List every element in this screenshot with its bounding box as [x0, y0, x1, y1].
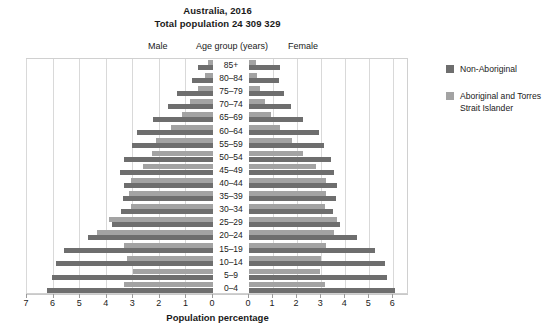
bar-nonaboriginal-female: [249, 196, 336, 201]
bar-aboriginal-male: [205, 73, 214, 78]
x-tick-label: 5: [71, 298, 87, 308]
bar-nonaboriginal-female: [249, 275, 387, 280]
bar-nonaboriginal-female: [249, 104, 291, 109]
bar-aboriginal-male: [127, 256, 213, 261]
bar-row: [27, 72, 213, 85]
axis-side-headers: Male Age group (years) Female: [0, 41, 435, 55]
bar-aboriginal-male: [124, 243, 213, 248]
x-tick-label: 6: [45, 298, 61, 308]
age-group-label: 10–14: [213, 256, 249, 269]
age-group-label-column: 85+80–8475–7970–7465–6960–6455–5950–5445…: [213, 59, 249, 293]
bar-row: [249, 151, 409, 164]
bar-row: [27, 190, 213, 203]
bar-aboriginal-female: [249, 282, 325, 287]
bar-row: [249, 72, 409, 85]
bar-row: [249, 125, 409, 138]
bar-nonaboriginal-female: [249, 209, 333, 214]
bar-row: [249, 138, 409, 151]
bar-row: [27, 98, 213, 111]
bar-row: [249, 256, 409, 269]
bar-row: [249, 229, 409, 242]
bar-nonaboriginal-male: [153, 117, 213, 122]
bar-aboriginal-female: [249, 164, 316, 169]
age-group-label: 55–59: [213, 138, 249, 151]
chart-legend: Non-AboriginalAboriginal and Torres Stra…: [446, 64, 556, 130]
bar-nonaboriginal-male: [192, 78, 213, 83]
bar-aboriginal-female: [249, 151, 303, 156]
bar-aboriginal-male: [143, 164, 213, 169]
x-tick-label: 3: [312, 298, 328, 308]
bar-nonaboriginal-female: [249, 183, 337, 188]
x-axis-title: Population percentage: [0, 312, 435, 323]
bar-aboriginal-female: [249, 86, 260, 91]
bar-row: [249, 85, 409, 98]
bar-nonaboriginal-male: [64, 248, 213, 253]
bar-aboriginal-male: [131, 204, 213, 209]
age-group-label: 40–44: [213, 177, 249, 190]
x-tick-label: 4: [98, 298, 114, 308]
x-tick-label: 4: [336, 298, 352, 308]
bar-nonaboriginal-female: [249, 248, 375, 253]
bar-nonaboriginal-male: [124, 183, 213, 188]
bar-aboriginal-female: [249, 243, 326, 248]
bar-nonaboriginal-female: [249, 222, 340, 227]
bar-nonaboriginal-male: [137, 130, 213, 135]
bar-nonaboriginal-male: [88, 235, 213, 240]
bar-row: [27, 138, 213, 151]
legend-swatch: [446, 92, 454, 100]
bar-row: [249, 111, 409, 124]
bar-row: [27, 216, 213, 229]
bar-aboriginal-female: [249, 178, 326, 183]
bar-nonaboriginal-male: [132, 143, 213, 148]
bar-nonaboriginal-male: [120, 170, 213, 175]
bar-nonaboriginal-male: [124, 157, 213, 162]
bar-row: [249, 177, 409, 190]
male-bar-rows: [27, 59, 213, 293]
x-tick-label: 2: [151, 298, 167, 308]
bar-aboriginal-female: [249, 125, 280, 130]
bar-row: [27, 269, 213, 282]
bar-nonaboriginal-male: [123, 196, 213, 201]
x-tick-label: 6: [384, 298, 400, 308]
bar-nonaboriginal-female: [249, 235, 357, 240]
bar-nonaboriginal-male: [168, 104, 213, 109]
x-tick-label: 0: [240, 298, 256, 308]
age-group-label: 5–9: [213, 269, 249, 282]
age-group-label: 75–79: [213, 85, 249, 98]
bar-aboriginal-male: [152, 151, 213, 156]
bar-row: [27, 203, 213, 216]
bar-aboriginal-male: [171, 125, 214, 130]
population-pyramid-chart: Australia, 2016 Total population 24 309 …: [0, 0, 560, 333]
bar-nonaboriginal-male: [177, 91, 213, 96]
bar-aboriginal-female: [249, 269, 320, 274]
bar-aboriginal-female: [249, 112, 271, 117]
bar-nonaboriginal-female: [249, 157, 331, 162]
age-group-label: 35–39: [213, 190, 249, 203]
bar-row: [27, 125, 213, 138]
bar-row: [249, 216, 409, 229]
legend-label: Non-Aboriginal: [446, 64, 556, 75]
age-group-label: 70–74: [213, 98, 249, 111]
legend-item[interactable]: Non-Aboriginal: [446, 64, 556, 75]
bar-nonaboriginal-female: [249, 130, 319, 135]
bar-nonaboriginal-male: [198, 65, 213, 70]
bar-aboriginal-female: [249, 60, 256, 65]
x-tick-label: 0: [204, 298, 220, 308]
age-group-axis-label: Age group (years): [196, 41, 268, 51]
bar-aboriginal-female: [249, 99, 265, 104]
chart-title: Australia, 2016: [0, 5, 435, 18]
bar-row: [27, 243, 213, 256]
bar-nonaboriginal-male: [56, 261, 213, 266]
legend-item[interactable]: Aboriginal and Torres Strait Islander: [446, 91, 556, 114]
x-tick-label: 2: [288, 298, 304, 308]
female-bar-rows: [249, 59, 409, 293]
bar-row: [249, 269, 409, 282]
bar-nonaboriginal-female: [249, 261, 385, 266]
bar-aboriginal-male: [182, 112, 213, 117]
bar-aboriginal-male: [133, 269, 213, 274]
bar-row: [249, 164, 409, 177]
male-panel: [27, 59, 213, 293]
bar-row: [27, 111, 213, 124]
bar-row: [27, 59, 213, 72]
x-axis-line: [26, 294, 408, 295]
